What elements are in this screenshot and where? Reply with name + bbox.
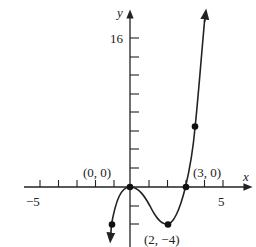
x-axis-label: x [242,169,249,184]
function-graph: y x 16 −5 5 (0, 0) (2, −4) (3, 0) [0,0,256,247]
y-ticks [130,38,139,224]
point-neg1 [109,221,116,228]
point-root [183,184,190,191]
point-3-5 [192,123,199,130]
y-axis-label: y [115,5,123,20]
point-origin [127,184,134,191]
x-tick-label-5: 5 [218,194,225,209]
point-minimum [165,221,172,228]
point-label-root: (3, 0) [193,165,221,180]
y-tick-label-16: 16 [110,31,124,46]
point-label-origin: (0, 0) [83,165,111,180]
point-label-minimum: (2, −4) [144,232,180,247]
x-tick-label-neg5: −5 [26,194,40,209]
function-curve [112,16,206,224]
